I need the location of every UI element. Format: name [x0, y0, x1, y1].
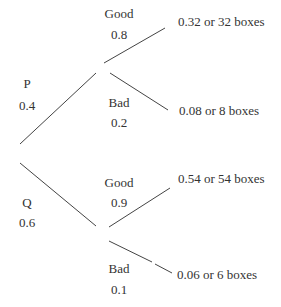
node-p-label: P	[7, 76, 47, 92]
outcome-p-bad: 0.08 or 8 boxes	[179, 103, 259, 119]
node-q-prob: 0.6	[7, 215, 47, 231]
node-p-bad-label: Bad	[99, 95, 139, 111]
branch-q-bad-a	[109, 241, 152, 262]
node-p-bad-prob: 0.2	[99, 115, 139, 131]
node-p-good-prob: 0.8	[99, 27, 139, 43]
outcome-p-good: 0.32 or 32 boxes	[178, 14, 265, 30]
node-p-good-label: Good	[99, 6, 139, 22]
branch-q-bad-b	[155, 264, 172, 273]
node-q-good-label: Good	[99, 175, 139, 191]
probability-tree-diagram: P 0.4 Q 0.6 Good 0.8 Bad 0.2 Good 0.9 Ba…	[0, 0, 281, 307]
node-q-bad-prob: 0.1	[99, 282, 139, 298]
node-p-prob: 0.4	[7, 98, 47, 114]
outcome-q-good: 0.54 or 54 boxes	[178, 171, 265, 187]
outcome-q-bad: 0.06 or 6 boxes	[177, 267, 257, 283]
node-q-bad-label: Bad	[99, 261, 139, 277]
node-q-label: Q	[7, 195, 47, 211]
tree-branches	[0, 0, 281, 307]
node-q-good-prob: 0.9	[99, 195, 139, 211]
